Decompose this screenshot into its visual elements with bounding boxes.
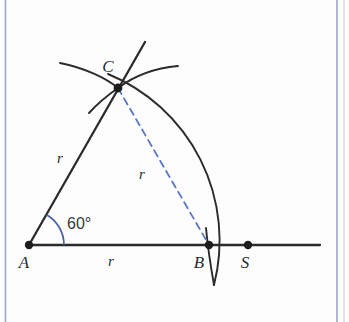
angle-measure-label: 60° [67,215,91,232]
dashed-chord-C-to-B [118,88,209,245]
compass-arc-tail-at-B [206,228,214,285]
point-label-C: C [102,57,114,76]
point-dot-C [114,84,123,93]
point-dot-B [205,241,213,249]
point-label-B: B [194,253,205,272]
compass-arc-right-crossing-at-C [118,66,178,88]
point-dot-S [244,241,252,249]
point-dot-A [25,241,33,249]
compass-arc-left-tail [89,88,118,113]
point-label-A: A [18,253,30,272]
angle-arc-at-A [47,215,65,245]
length-label-AB: r [108,253,114,269]
length-label-CB: r [139,166,145,182]
geometry-canvas: A B C S r r r 60° [0,0,349,322]
length-label-AC: r [57,150,63,166]
point-label-S: S [241,253,250,272]
geometry-figure: A B C S r r r 60° [0,0,349,322]
